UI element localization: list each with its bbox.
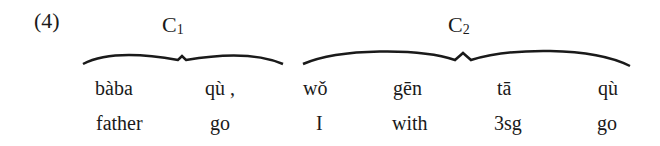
gloss-father: father (96, 112, 143, 134)
gloss-3sg: 3sg (494, 112, 522, 134)
overbrace-c1 (83, 55, 283, 64)
word-wo: wǒ (303, 77, 327, 99)
gloss-go-1: go (210, 112, 230, 134)
word-gen: gēn (393, 77, 422, 99)
word-qu-2: qù (598, 77, 618, 99)
gloss-with: with (392, 112, 428, 134)
word-baba: bàba (95, 77, 133, 99)
gloss-go-2: go (597, 112, 617, 134)
overbrace-c2 (303, 51, 630, 66)
word-qu-1: qù , (205, 77, 235, 99)
gloss-i: I (316, 112, 323, 134)
word-ta: tā (497, 77, 511, 99)
